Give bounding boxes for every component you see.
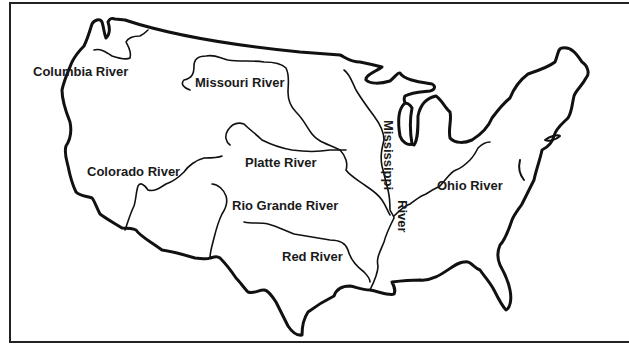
label-mississippi: Mississippi (382, 120, 395, 190)
label-mississippi-river: River (396, 200, 409, 233)
columbia-river (94, 30, 148, 59)
platte-river (226, 123, 346, 151)
lake-michigan (399, 103, 412, 144)
label-rio-grande-river: Rio Grande River (232, 199, 338, 212)
label-ohio-river: Ohio River (437, 179, 503, 192)
rio-grande-river (210, 184, 227, 258)
chesapeake-bay (519, 160, 524, 180)
label-red-river: Red River (282, 250, 343, 263)
label-colorado-river: Colorado River (87, 165, 180, 178)
label-missouri-river: Missouri River (195, 76, 285, 89)
label-columbia-river: Columbia River (33, 65, 128, 78)
label-platte-river: Platte River (245, 156, 317, 169)
